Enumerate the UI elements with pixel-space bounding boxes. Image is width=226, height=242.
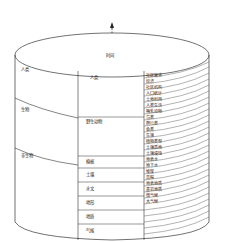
item-habitat: 生境 — [146, 133, 154, 138]
item-groundwater: 地下水 — [146, 163, 158, 168]
group-hydrology: 水文 — [86, 186, 94, 191]
category-abiotic: 非生物 — [21, 153, 33, 158]
item-community-needs: 社区需求 — [146, 73, 162, 78]
item-surface-water: 地表水 — [146, 157, 158, 162]
item-slope: 坡度 — [146, 169, 154, 174]
item-surface-geology: 地表地质 — [146, 181, 162, 186]
group-geology: 地质 — [86, 214, 94, 219]
category-biota: 生物 — [21, 107, 29, 112]
item-community-institutions: 社区机构 — [146, 85, 162, 90]
item-plant-types: 植物类型 — [146, 139, 162, 144]
item-microclimate: 微气候 — [146, 193, 158, 198]
item-demographics: 人口统计 — [146, 91, 162, 96]
item-bedrock-geology: 基岩地质 — [146, 187, 162, 192]
group-soil: 土壤 — [86, 172, 94, 177]
group-vegetation: 植被 — [86, 159, 94, 164]
item-economy: 经济 — [146, 79, 154, 84]
item-elevation: 高程 — [146, 175, 154, 180]
item-soil-texture: 土壤质地 — [146, 145, 162, 150]
item-reptiles: 爬行类 — [146, 121, 158, 126]
group-climate: 气候 — [86, 228, 94, 233]
item-fish: 鱼类 — [146, 127, 154, 132]
category-human: 人类 — [21, 67, 29, 72]
layered-cylinder-diagram: 时间 人类 生物 非生物 人类 野生动物 植被 土壤 水文 地形 地质 气候 社… — [0, 0, 226, 242]
time-axis-label: 时间 — [106, 53, 114, 58]
group-topography: 地形 — [86, 200, 94, 205]
item-mammals: 哺乳动物 — [146, 109, 162, 114]
item-human-life: 人类生活 — [146, 103, 162, 108]
item-macroclimate: 大气候 — [146, 199, 158, 204]
group-wildlife: 野生动物 — [86, 119, 102, 124]
item-birds: 鸟类 — [146, 115, 154, 120]
group-human: 人类 — [90, 75, 98, 80]
item-land-use: 土地利用 — [146, 97, 162, 102]
item-soil-erosion: 土壤侵蚀 — [146, 151, 162, 156]
cylinder-svg — [0, 0, 226, 242]
